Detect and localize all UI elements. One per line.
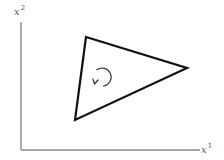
triangle	[75, 37, 187, 120]
y-axis-label: x2	[14, 7, 25, 17]
y-axis-label-superscript: 2	[21, 4, 25, 12]
x-axis-label-superscript: 1	[208, 142, 212, 150]
x-axis-label: x1	[201, 145, 212, 155]
oriented-triangle-diagram: x2 x1	[0, 0, 224, 160]
x-axis-label-base: x	[201, 144, 207, 155]
diagram-canvas	[0, 0, 224, 160]
counterclockwise-arrow-icon	[93, 68, 111, 86]
y-axis-label-base: x	[14, 6, 20, 17]
